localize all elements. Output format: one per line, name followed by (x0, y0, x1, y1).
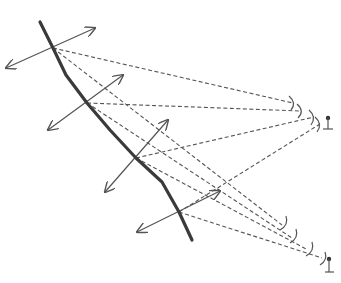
arc-icon (280, 216, 287, 230)
arc-icon (289, 96, 294, 110)
ray (87, 103, 300, 111)
ray (179, 124, 320, 212)
receiver-1-icon (323, 116, 333, 129)
diagram-svg (0, 0, 341, 283)
ray (53, 48, 293, 103)
rays-to-receiver-2 (53, 48, 322, 258)
double-arrow-icon (105, 120, 168, 192)
arc-icon (306, 242, 313, 256)
surface-curve (40, 22, 192, 240)
wavefront-arcs-1 (289, 96, 320, 132)
ray (136, 117, 314, 158)
arc-icon (320, 252, 326, 265)
double-arrow-icon (6, 28, 95, 68)
receiver-2-icon (325, 257, 334, 272)
rays-to-receiver-1 (53, 48, 320, 212)
ray (179, 212, 322, 258)
wavefront-arcs-2 (280, 216, 326, 265)
ray-diagram (0, 0, 341, 283)
ray (87, 103, 292, 238)
ray (136, 158, 308, 250)
normal-arrows (6, 28, 220, 232)
